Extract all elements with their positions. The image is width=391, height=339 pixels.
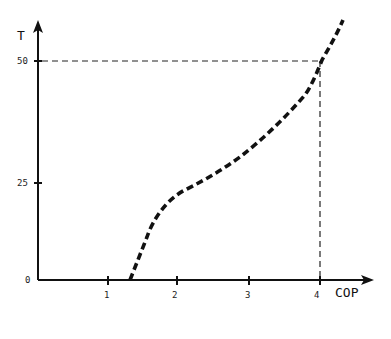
x-tick-label-2: 2 <box>172 290 177 300</box>
cop-temperature-chart: T 50 25 0 1 2 3 4 COP <box>0 0 391 339</box>
y-tick-label-0: 0 <box>25 275 30 285</box>
y-axis-title: T <box>17 28 25 43</box>
y-tick-label-25: 25 <box>17 178 28 188</box>
x-axis-title: COP <box>335 285 359 300</box>
x-tick-label-4: 4 <box>314 290 319 300</box>
x-tick-label-1: 1 <box>104 290 109 300</box>
data-curve <box>130 20 343 280</box>
x-tick-label-3: 3 <box>245 290 250 300</box>
y-tick-label-50: 50 <box>17 56 28 66</box>
